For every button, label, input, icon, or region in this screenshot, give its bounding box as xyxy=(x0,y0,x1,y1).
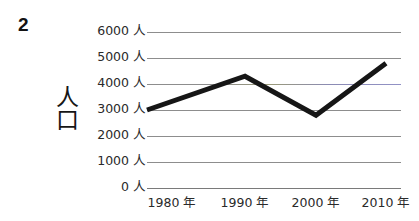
gridline-axis-0 xyxy=(147,188,401,189)
y-tick-label-1000: 1000 人 xyxy=(82,155,146,168)
y-axis-title-char-1: 人 xyxy=(54,86,80,109)
y-tick-label-0: 0 人 xyxy=(82,181,146,194)
y-tick-label-5000: 5000 人 xyxy=(82,51,146,64)
gridline-2000 xyxy=(147,136,401,137)
question-number: 2 xyxy=(18,14,29,36)
x-tick-label-1980: 1980 年 xyxy=(148,196,197,209)
x-tick-label-1990: 1990 年 xyxy=(221,196,270,209)
gridline-1000 xyxy=(147,162,401,163)
y-tick-label-3000: 3000 人 xyxy=(82,103,146,116)
x-tick-label-2010: 2010 年 xyxy=(362,196,411,209)
gridline-3000 xyxy=(147,110,401,111)
x-tick-label-2000: 2000 年 xyxy=(292,196,341,209)
line-chart: 2 人口 6000 人 5000 人 4000 人 3000 人 2000 人 … xyxy=(0,0,419,221)
gridline-5000 xyxy=(147,58,401,59)
y-axis-title: 人口 xyxy=(54,86,80,132)
y-tick-label-6000: 6000 人 xyxy=(82,25,146,38)
y-tick-label-4000: 4000 人 xyxy=(82,77,146,90)
y-tick-label-2000: 2000 人 xyxy=(82,129,146,142)
gridline-6000 xyxy=(147,32,401,33)
gridline-4000 xyxy=(147,84,401,85)
y-axis-title-char-2: 口 xyxy=(54,109,80,132)
